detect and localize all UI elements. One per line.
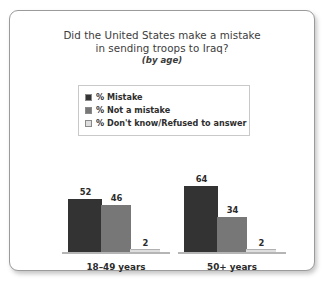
- legend-item-mistake: % Mistake: [85, 91, 243, 104]
- bar-group-bars: 64342: [178, 180, 286, 252]
- bar: 34: [217, 217, 247, 252]
- axis-baseline: [62, 252, 170, 254]
- bar: 52: [68, 199, 102, 252]
- legend-swatch-icon: [85, 94, 92, 101]
- bar-value-label: 64: [196, 174, 208, 184]
- legend-item-label: % Not a mistake: [96, 104, 170, 117]
- legend-item-not-a-mistake: % Not a mistake: [85, 104, 243, 117]
- axis-baseline: [178, 252, 286, 254]
- bar-value-label: 2: [259, 238, 265, 248]
- bar-value-label: 52: [80, 187, 92, 197]
- legend-swatch-icon: [85, 107, 92, 114]
- chart-card: Did the United States make a mistake in …: [9, 10, 315, 271]
- legend-item-label: % Don't know/Refused to answer: [96, 117, 246, 130]
- bar: 64: [184, 186, 218, 252]
- legend-swatch-icon: [85, 120, 92, 127]
- page-title: Did the United States make a mistake in …: [10, 29, 314, 66]
- legend-item-dont-know: % Don't know/Refused to answer: [85, 117, 243, 130]
- bar-group-bars: 52462: [62, 180, 170, 252]
- bar-chart-plot: 52462 18–49 years 64342 50+ years: [10, 154, 314, 272]
- bar-value-label: 46: [111, 193, 123, 203]
- category-label: 50+ years: [178, 262, 286, 272]
- title-subtitle: (by age): [10, 54, 314, 66]
- bar-value-label: 2: [143, 238, 149, 248]
- title-line-1: Did the United States make a mistake: [10, 29, 314, 42]
- chart-legend: % Mistake % Not a mistake % Don't know/R…: [78, 85, 250, 136]
- category-label: 18–49 years: [62, 262, 170, 272]
- title-line-2: in sending troops to Iraq?: [10, 42, 314, 55]
- chart-screenshot: Did the United States make a mistake in …: [0, 0, 328, 288]
- bar: 46: [101, 205, 131, 252]
- legend-item-label: % Mistake: [96, 91, 143, 104]
- bar-value-label: 34: [227, 205, 239, 215]
